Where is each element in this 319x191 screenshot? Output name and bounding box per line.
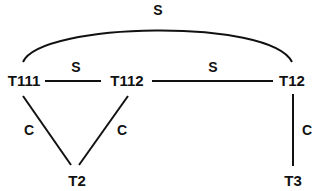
- edge-label-t111-t2: C: [24, 122, 34, 138]
- edge-label-t12-t3: C: [302, 122, 312, 138]
- node-t112: T112: [110, 72, 143, 89]
- node-t12: T12: [279, 72, 305, 89]
- edge-label-t112-t12: S: [208, 59, 217, 75]
- diagram-canvas: S S S C C C T111 T112 T12 T2 T3: [0, 0, 319, 191]
- node-t3: T3: [284, 172, 302, 189]
- node-t2: T2: [68, 172, 86, 189]
- node-t111: T111: [8, 72, 41, 89]
- edge-t111-t12-arc: [23, 30, 292, 62]
- edge-label-t111-t12: S: [153, 2, 162, 18]
- edge-label-t111-t112: S: [71, 59, 80, 75]
- edge-label-t112-t2: C: [117, 122, 127, 138]
